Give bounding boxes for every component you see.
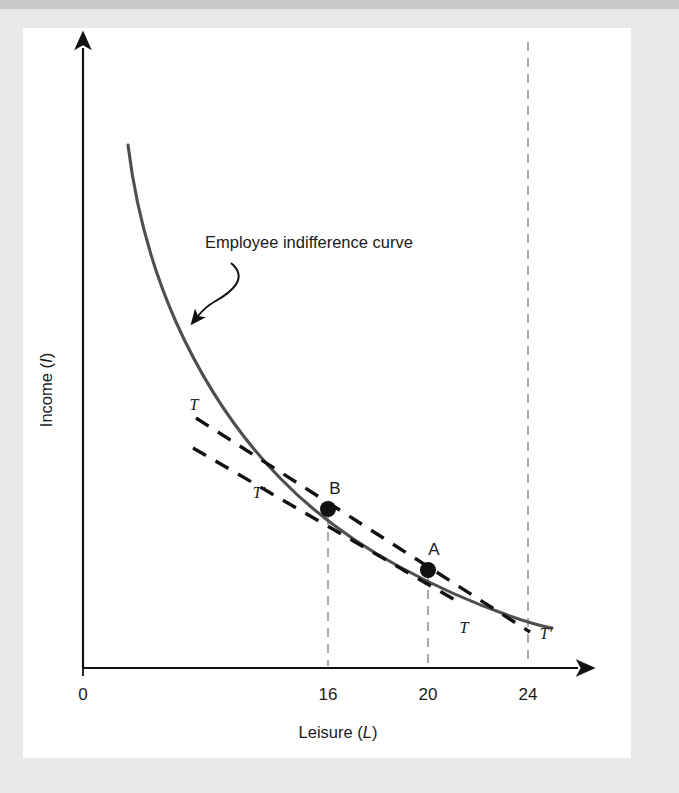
x-tick-label-20: 20 [419, 685, 438, 704]
x-axis-title-variable: L [363, 723, 372, 741]
x-tick-label-24: 24 [519, 685, 538, 704]
line-label-T-prime-lower-right: T' [540, 625, 553, 642]
curve-callout-arrow [198, 263, 239, 316]
x-axis-title-text: Leisure ( [299, 723, 364, 741]
point-label-A: A [428, 540, 440, 559]
budget-lines-group [193, 418, 530, 632]
line-label-T-prime-upper-left: T' [253, 484, 266, 501]
axes-group [83, 48, 578, 668]
x-axis-title: Leisure (L) [299, 723, 378, 741]
y-axis-title-text: Income ( [37, 362, 55, 427]
indifference-curve-diagram: B A T T' T T' Employee indifference curv… [0, 0, 679, 793]
marked-points-group [320, 501, 436, 578]
line-label-T-upper-left: T [190, 396, 200, 413]
point-marker-A [420, 562, 436, 578]
y-axis-title-close: ) [37, 353, 55, 359]
x-tick-label-16: 16 [319, 685, 338, 704]
budget-line-T [196, 418, 530, 632]
employee-indifference-curve [128, 145, 552, 628]
curve-callout-label: Employee indifference curve [205, 233, 413, 251]
point-marker-B [320, 501, 336, 517]
indifference-curve-path [128, 145, 552, 628]
x-tick-label-0: 0 [78, 685, 87, 704]
line-label-T-lower-right: T [460, 619, 470, 636]
y-axis-title: Income (I) [37, 353, 55, 427]
x-axis-title-close: ) [372, 723, 378, 741]
point-label-B: B [329, 479, 340, 498]
